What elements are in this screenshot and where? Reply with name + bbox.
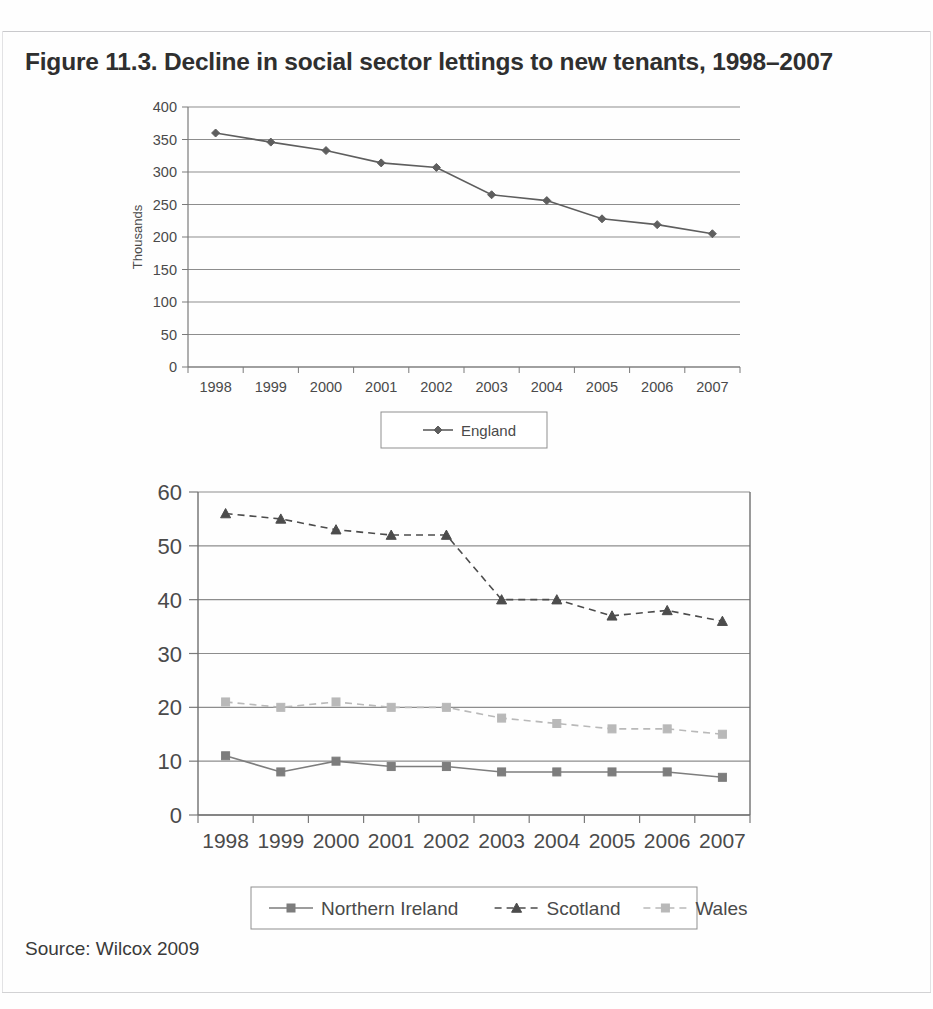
data-point-marker-diamond xyxy=(377,159,385,167)
page-bottom-rule xyxy=(2,992,931,993)
y-axis-tick-label: 200 xyxy=(153,229,177,245)
x-axis-tick-label: 2002 xyxy=(420,379,452,395)
data-point-marker-square xyxy=(661,904,669,912)
y-axis-tick-label: 150 xyxy=(153,262,177,278)
y-axis-tick-label: 30 xyxy=(158,642,182,667)
x-axis-tick-label: 2002 xyxy=(423,829,470,852)
data-point-marker-square xyxy=(663,725,671,733)
x-axis-tick-label: 2000 xyxy=(313,829,360,852)
data-point-marker-square xyxy=(332,757,340,765)
legend-label-northern-ireland: Northern Ireland xyxy=(321,898,458,919)
data-point-marker-square xyxy=(553,719,561,727)
data-point-marker-square xyxy=(608,768,616,776)
y-axis-tick-label: 60 xyxy=(158,480,182,505)
data-point-marker-square xyxy=(277,768,285,776)
x-axis-tick-label: 2007 xyxy=(696,379,728,395)
england-chart-canvas: 050100150200250300350400Thousands1998199… xyxy=(0,92,933,452)
x-axis-tick-label: 2001 xyxy=(365,379,397,395)
nations-chart-canvas: 0102030405060199819992000200120022003200… xyxy=(0,470,933,940)
data-point-marker-square xyxy=(222,752,230,760)
legend-label-england: England xyxy=(461,422,516,439)
data-point-marker-square xyxy=(442,703,450,711)
figure-page: Figure 11.3. Decline in social sector le… xyxy=(0,0,933,1009)
data-point-marker-square xyxy=(222,698,230,706)
y-axis-tick-label: 50 xyxy=(158,534,182,559)
y-axis-tick-label: 100 xyxy=(153,294,177,310)
x-axis-tick-label: 2006 xyxy=(644,829,691,852)
data-point-marker-square xyxy=(553,768,561,776)
y-axis-tick-label: 10 xyxy=(158,749,182,774)
data-point-marker-square xyxy=(498,714,506,722)
series-line-scotland xyxy=(226,514,723,622)
x-axis-tick-label: 1998 xyxy=(199,379,231,395)
series-line-northern-ireland xyxy=(226,756,723,778)
x-axis-tick-label: 1998 xyxy=(202,829,249,852)
data-point-marker-square xyxy=(387,763,395,771)
legend-label-wales: Wales xyxy=(695,898,747,919)
data-point-marker-diamond xyxy=(322,147,330,155)
data-point-marker-diamond xyxy=(653,221,661,229)
x-axis-tick-label: 2004 xyxy=(533,829,580,852)
data-point-marker-square xyxy=(387,703,395,711)
data-point-marker-diamond xyxy=(212,129,220,137)
data-point-marker-square xyxy=(498,768,506,776)
y-axis-label: Thousands xyxy=(130,204,145,269)
data-point-marker-diamond xyxy=(488,191,496,199)
data-point-marker-square xyxy=(442,763,450,771)
x-axis-tick-label: 2003 xyxy=(478,829,525,852)
data-point-marker-diamond xyxy=(543,197,551,205)
england-chart: 050100150200250300350400Thousands1998199… xyxy=(0,92,933,452)
nations-chart: 0102030405060199819992000200120022003200… xyxy=(0,470,933,940)
x-axis-tick-label: 2000 xyxy=(310,379,342,395)
x-axis-tick-label: 2005 xyxy=(589,829,636,852)
x-axis-tick-label: 2007 xyxy=(699,829,746,852)
series-line-england xyxy=(216,133,713,234)
x-axis-tick-label: 2005 xyxy=(586,379,618,395)
data-point-marker-square xyxy=(287,904,295,912)
y-axis-tick-label: 0 xyxy=(169,359,177,375)
x-axis-tick-label: 2001 xyxy=(368,829,415,852)
figure-title: Figure 11.3. Decline in social sector le… xyxy=(25,48,905,76)
data-point-marker-diamond xyxy=(432,163,440,171)
y-axis-tick-label: 40 xyxy=(158,588,182,613)
data-point-marker-square xyxy=(663,768,671,776)
legend-label-scotland: Scotland xyxy=(547,898,621,919)
x-axis-tick-label: 2003 xyxy=(475,379,507,395)
data-point-marker-square xyxy=(718,730,726,738)
legend-box xyxy=(251,887,697,929)
page-top-rule xyxy=(2,31,931,32)
y-axis-tick-label: 400 xyxy=(153,99,177,115)
data-point-marker-diamond xyxy=(598,215,606,223)
y-axis-tick-label: 250 xyxy=(153,197,177,213)
data-point-marker-square xyxy=(277,703,285,711)
y-axis-tick-label: 350 xyxy=(153,132,177,148)
data-point-marker-square xyxy=(608,725,616,733)
y-axis-tick-label: 20 xyxy=(158,695,182,720)
y-axis-tick-label: 300 xyxy=(153,164,177,180)
x-axis-tick-label: 1999 xyxy=(257,829,304,852)
x-axis-tick-label: 1999 xyxy=(255,379,287,395)
y-axis-tick-label: 50 xyxy=(161,327,177,343)
source-note: Source: Wilcox 2009 xyxy=(25,938,199,960)
data-point-marker-square xyxy=(332,698,340,706)
x-axis-tick-label: 2006 xyxy=(641,379,673,395)
y-axis-tick-label: 0 xyxy=(170,803,182,828)
x-axis-tick-label: 2004 xyxy=(531,379,563,395)
data-point-marker-square xyxy=(718,773,726,781)
